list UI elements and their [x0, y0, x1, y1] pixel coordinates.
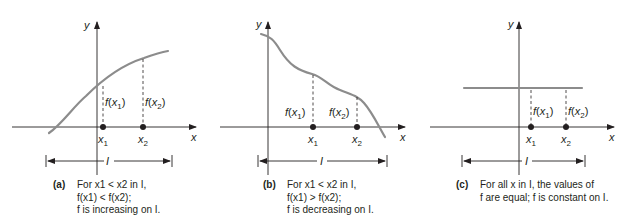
caption-line: For all x in I, the values of — [480, 179, 621, 192]
decreasing-curve — [261, 34, 385, 137]
x1-label: x1 — [97, 133, 109, 148]
interval-label: I — [525, 155, 528, 167]
x2-label: x2 — [137, 133, 149, 148]
x2-label: x2 — [351, 133, 363, 148]
caption-tag: (b) — [263, 179, 276, 192]
x1-label: x1 — [307, 133, 319, 148]
fx1-label: f(x1) — [285, 106, 305, 121]
y-axis-label: y — [507, 18, 515, 30]
caption-line: For x1 < x2 in I, — [77, 179, 213, 192]
x-axis-label: x — [190, 131, 197, 143]
point-x1 — [528, 124, 534, 130]
increasing-curve — [49, 51, 168, 133]
caption-b: (b) For x1 < x2 in I, f(x1) > f(x2); f i… — [263, 179, 423, 217]
caption-line: f is increasing on I. — [77, 204, 213, 217]
point-x2 — [140, 124, 146, 130]
y-axis-label: y — [83, 19, 91, 31]
caption-tag: (c) — [456, 179, 468, 192]
x2-label: x2 — [560, 133, 572, 148]
panel-c-graph: y x f(x1) f(x2) x1 x2 I — [430, 18, 615, 175]
caption-line: f are equal; f is constant on I. — [480, 192, 621, 205]
panel-a-graph: y x f(x1) f(x2) x1 x2 I — [12, 19, 197, 175]
point-x1 — [100, 124, 106, 130]
fx1-label: f(x1) — [105, 96, 125, 111]
x-axis-label: x — [399, 131, 406, 143]
interval-label: I — [106, 155, 109, 167]
interval-label: I — [320, 155, 323, 167]
caption-a: (a) For x1 < x2 in I, f(x1) < f(x2); f i… — [53, 179, 213, 217]
caption-line: f(x1) < f(x2); — [77, 192, 213, 205]
fx2-label: f(x2) — [145, 96, 165, 111]
caption-c: (c) For all x in I, the values of f are … — [456, 179, 621, 204]
caption-line: f is decreasing on I. — [287, 204, 423, 217]
panel-b-graph: y x f(x1) f(x2) x1 x2 I — [220, 18, 406, 175]
point-x2 — [354, 124, 360, 130]
y-axis-label: y — [255, 18, 263, 30]
caption-tag: (a) — [53, 179, 65, 192]
x-axis-label: x — [608, 131, 615, 143]
fx1-label: f(x1) — [533, 105, 553, 120]
caption-line: f(x1) > f(x2); — [287, 192, 423, 205]
fx2-label: f(x2) — [329, 106, 349, 121]
caption-line: For x1 < x2 in I, — [287, 179, 423, 192]
point-x1 — [310, 124, 316, 130]
point-x2 — [563, 124, 569, 130]
x1-label: x1 — [525, 133, 537, 148]
fx2-label: f(x2) — [568, 105, 588, 120]
